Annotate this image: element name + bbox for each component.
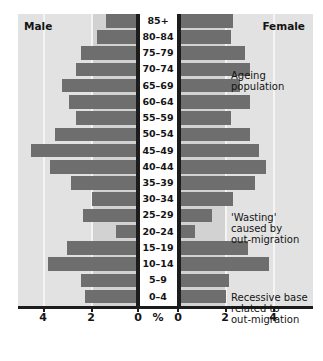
annotation-wasting-line1: 'Wasting': [231, 212, 299, 223]
bar-female: [177, 95, 250, 109]
annotation-recessive-base: Recessive base related to out-migration: [231, 292, 308, 326]
ticklabel-female-2: 2: [221, 311, 229, 324]
bar-female: [177, 192, 233, 206]
bar-male: [67, 241, 138, 255]
bar-female: [177, 128, 250, 142]
bar-male: [76, 111, 137, 125]
annotation-recessive-line2: related to: [231, 303, 308, 314]
axis-unit-label: %: [152, 311, 163, 324]
age-group-label: 70–74: [139, 64, 177, 74]
annotation-ageing-line1: Ageing: [231, 70, 284, 81]
bar-male: [76, 63, 137, 77]
age-group-label: 15–19: [139, 243, 177, 253]
age-group-label: 0–4: [139, 292, 177, 302]
bar-female: [177, 111, 231, 125]
annotation-recessive-line3: out-migration: [231, 314, 308, 325]
bar-female: [177, 46, 245, 60]
age-group-label: 65–69: [139, 81, 177, 91]
age-group-label: 55–59: [139, 113, 177, 123]
bar-female: [177, 144, 259, 158]
bar-male: [85, 290, 137, 304]
female-header: Female: [262, 20, 305, 32]
age-group-label: 5–9: [139, 275, 177, 285]
bar-male: [92, 192, 137, 206]
bar-male: [55, 128, 137, 142]
ticklabel-female-0: 0: [174, 311, 182, 324]
bar-male: [116, 225, 137, 239]
age-group-label: 85+: [139, 16, 177, 26]
age-group-label: 35–39: [139, 178, 177, 188]
age-group-label: 75–79: [139, 48, 177, 58]
bar-female: [177, 30, 231, 44]
male-header: Male: [24, 20, 52, 32]
annotation-ageing-line2: population: [231, 81, 284, 92]
bar-male: [97, 30, 137, 44]
bar-male: [83, 209, 137, 223]
age-group-label: 10–14: [139, 259, 177, 269]
annotation-wasting: 'Wasting' caused by out-migration: [231, 212, 299, 246]
annotation-recessive-line1: Recessive base: [231, 292, 308, 303]
bar-male: [81, 274, 137, 288]
bar-male: [81, 46, 137, 60]
bar-female: [177, 176, 255, 190]
bar-male: [50, 160, 137, 174]
ticklabel-male-4: 4: [39, 311, 47, 324]
axis-rule-female: [177, 14, 181, 307]
annotation-wasting-line3: out-migration: [231, 234, 299, 245]
bar-female: [177, 209, 212, 223]
bar-female: [177, 290, 226, 304]
bar-male: [71, 176, 137, 190]
bar-male: [48, 257, 137, 271]
bar-male: [69, 95, 137, 109]
age-group-label: 30–34: [139, 194, 177, 204]
age-group-label: 40–44: [139, 162, 177, 172]
age-group-label: 45–49: [139, 146, 177, 156]
ticklabel-male-2: 2: [87, 311, 95, 324]
bar-female: [177, 160, 266, 174]
ticklabel-male-0: 0: [134, 311, 142, 324]
annotation-wasting-line2: caused by: [231, 223, 299, 234]
bar-male: [106, 14, 137, 28]
bar-female: [177, 257, 269, 271]
bar-male: [62, 79, 137, 93]
age-group-label: 80–84: [139, 32, 177, 42]
bar-female: [177, 274, 229, 288]
age-group-label: 60–64: [139, 97, 177, 107]
bar-female: [177, 14, 233, 28]
annotation-ageing-population: Ageing population: [231, 70, 284, 92]
population-pyramid-chart: 0–45–910–1415–1920–2425–2930–3435–3940–4…: [0, 0, 323, 361]
age-group-label: 20–24: [139, 227, 177, 237]
bar-male: [31, 144, 137, 158]
age-group-label: 50–54: [139, 129, 177, 139]
age-group-label: 25–29: [139, 210, 177, 220]
